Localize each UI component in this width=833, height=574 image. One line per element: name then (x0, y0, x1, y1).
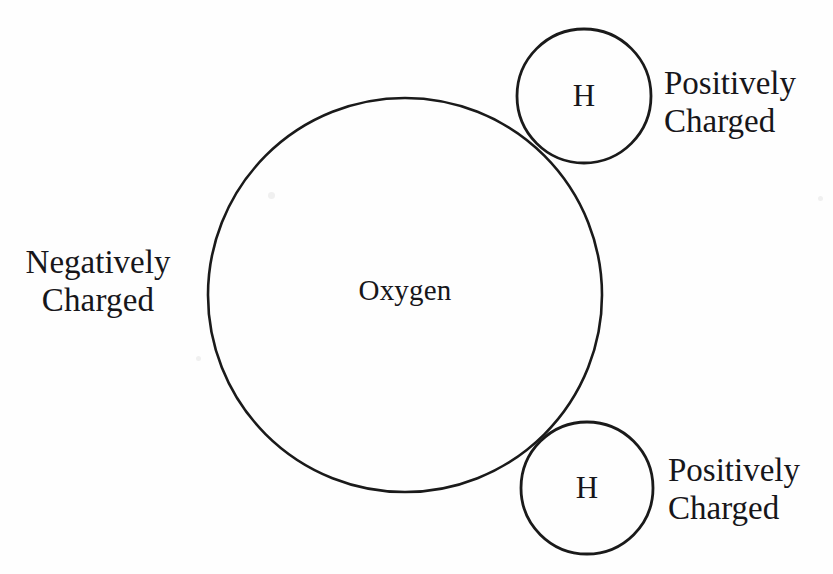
hydrogen-bottom-atom-label: H (537, 472, 637, 503)
positive-charge-annotation-top: Positively Charged (664, 64, 824, 140)
oxygen-atom-label: Oxygen (305, 276, 505, 305)
negative-charge-line-2: Charged (8, 281, 188, 319)
positive-charge-bottom-line-1: Positively (668, 451, 828, 489)
positive-charge-annotation-bottom: Positively Charged (668, 451, 828, 527)
positive-charge-top-line-2: Charged (664, 102, 824, 140)
scan-artifact-speck (196, 356, 201, 361)
negative-charge-line-1: Negatively (8, 243, 188, 281)
positive-charge-bottom-line-2: Charged (668, 489, 828, 527)
scan-artifact-speck (818, 196, 823, 201)
water-molecule-diagram: Oxygen H H Negatively Charged Positively… (0, 0, 833, 574)
scan-artifact-speck (268, 192, 275, 199)
hydrogen-top-atom-label: H (534, 80, 634, 111)
positive-charge-top-line-1: Positively (664, 64, 824, 102)
negative-charge-annotation: Negatively Charged (8, 243, 188, 319)
